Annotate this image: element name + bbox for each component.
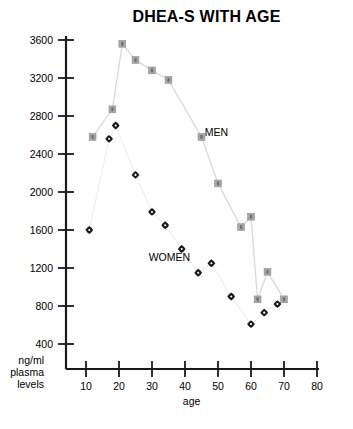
marker-diamond-center [151, 211, 153, 213]
y-axis-title-line: ng/ml [18, 354, 44, 366]
y-tick-label: 2000 [30, 186, 54, 198]
data-point-men [149, 67, 156, 74]
data-point-women [105, 135, 113, 143]
y-axis: 4008001200160020002400280032003600 [30, 34, 74, 369]
data-point-men [165, 77, 172, 84]
marker-square-inner [134, 58, 136, 62]
marker-diamond-center [230, 295, 232, 297]
marker-diamond-center [197, 272, 199, 274]
marker-square-inner [283, 297, 285, 301]
x-tick-label: 30 [146, 380, 158, 392]
y-tick-label: 3200 [30, 72, 54, 84]
data-point-men [132, 57, 139, 64]
marker-square-inner [92, 135, 94, 139]
marker-diamond-center [164, 224, 166, 226]
x-tick-label: 10 [80, 380, 92, 392]
marker-square-inner [257, 297, 259, 301]
marker-diamond-center [250, 323, 252, 325]
data-point-men [119, 40, 126, 47]
marker-square-inner [217, 182, 219, 186]
marker-diamond-center [134, 174, 136, 176]
y-tick-label: 1200 [30, 262, 54, 274]
data-point-men [238, 224, 245, 231]
series-label-men: MEN [205, 126, 228, 138]
chart-container: DHEA-S WITH AGE 400800120016002000240028… [0, 0, 353, 429]
x-tick-label: 40 [179, 380, 191, 392]
y-tick-label: 2400 [30, 148, 54, 160]
series-line-women [89, 126, 277, 325]
data-point-men [248, 213, 255, 220]
marker-square-inner [250, 215, 252, 219]
series-label-women: WOMEN [149, 251, 190, 263]
data-point-men [264, 268, 271, 275]
y-tick-label: 2800 [30, 110, 54, 122]
y-tick-label: 3600 [30, 34, 54, 46]
x-tick-label: 80 [311, 380, 323, 392]
marker-square-inner [151, 69, 153, 73]
series-annotations: MENWOMEN [149, 126, 228, 263]
marker-diamond-center [108, 138, 110, 140]
marker-diamond-center [181, 248, 183, 250]
data-point-men [89, 134, 96, 141]
x-axis-title: age [183, 395, 201, 407]
y-axis-title-line: plasma [10, 366, 44, 378]
data-point-men [215, 180, 222, 187]
marker-square-inner [240, 225, 242, 229]
data-point-women [85, 226, 93, 234]
marker-square-inner [111, 107, 113, 111]
marker-diamond-center [276, 303, 278, 305]
data-point-men [109, 106, 116, 113]
x-tick-label: 20 [113, 380, 125, 392]
marker-square-inner [200, 135, 202, 139]
data-point-women [274, 300, 282, 308]
marker-square-inner [167, 78, 169, 82]
data-point-women [132, 171, 140, 179]
marker-square-inner [266, 270, 268, 274]
series-lines [89, 44, 284, 324]
marker-diamond-center [210, 262, 212, 264]
data-point-women [112, 122, 120, 130]
y-axis-title-line: levels [17, 378, 44, 390]
x-tick-label: 70 [278, 380, 290, 392]
y-tick-label: 400 [35, 338, 53, 350]
data-point-men [281, 296, 288, 303]
marker-diamond-center [263, 312, 265, 314]
data-point-men [254, 296, 261, 303]
axis-titles: ageng/mlplasmalevels [10, 354, 200, 407]
y-tick-label: 1600 [30, 224, 54, 236]
x-tick-label: 60 [245, 380, 257, 392]
marker-square-inner [121, 42, 123, 46]
marker-diamond-center [115, 124, 117, 126]
x-tick-label: 50 [212, 380, 224, 392]
marker-diamond-center [88, 229, 90, 231]
y-tick-label: 800 [35, 300, 53, 312]
x-axis: 1020304050607080 [66, 361, 323, 392]
chart-plot-area: 4008001200160020002400280032003600 10203… [0, 0, 353, 429]
